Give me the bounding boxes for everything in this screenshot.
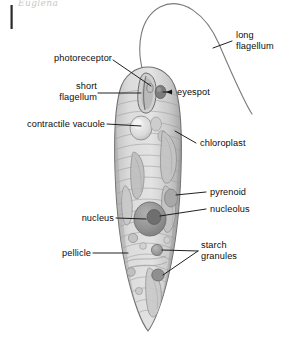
label-long-flagellum-line2: flagellum [236, 41, 274, 52]
starch-granule [128, 233, 137, 242]
label-photoreceptor: photoreceptor [54, 53, 112, 64]
contractile-vacuole-organelle [130, 116, 152, 140]
label-contractile-vacuole: contractile vacuole [27, 119, 105, 130]
label-eyespot: eyespot [177, 87, 210, 98]
label-short-flagellum-line2: flagellum [59, 92, 97, 103]
pyrenoid-organelle [165, 189, 178, 207]
contractile-vacuole-highlight [133, 119, 142, 129]
starch-granule [151, 244, 162, 255]
label-long-flagellum-line1: long [236, 30, 274, 41]
label-starch-granules-line2: granules [201, 251, 237, 262]
label-starch-granules-line1: starch [201, 240, 237, 251]
label-short-flagellum-line1: short [59, 81, 97, 92]
nucleolus-organelle [147, 210, 161, 225]
label-nucleolus: nucleolus [210, 204, 250, 215]
label-nucleus: nucleus [82, 213, 114, 224]
accessory-vacuole [151, 117, 162, 131]
starch-granule [135, 287, 142, 294]
label-short-flagellum: short flagellum [59, 81, 97, 103]
starch-granule [140, 243, 147, 250]
diagram-canvas: Euglena [0, 0, 283, 342]
leader-long-flagellum [213, 41, 232, 48]
label-pellicle: pellicle [62, 248, 91, 259]
starch-granule [152, 269, 164, 281]
label-long-flagellum: long flagellum [236, 30, 274, 52]
label-starch-granules: starch granules [201, 240, 237, 262]
label-pyrenoid: pyrenoid [210, 187, 246, 198]
edge-bar-artifact [11, 5, 13, 29]
starch-granule [164, 237, 170, 244]
eyespot-highlight [157, 87, 161, 92]
starch-granule [127, 268, 135, 276]
label-chloroplast: chloroplast [200, 138, 246, 149]
